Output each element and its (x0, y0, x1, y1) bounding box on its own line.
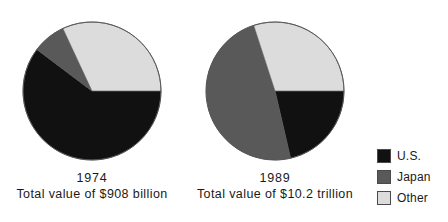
pie-1989-total-label: Total value of $10.2 trillion (190, 186, 360, 203)
pie-1989-year-label: 1989 (190, 170, 360, 186)
pie-1989-caption: 1989 Total value of $10.2 trillion (190, 170, 360, 203)
pie-1974-svg (19, 18, 165, 164)
legend-swatch-other-icon (377, 191, 391, 205)
pie-1989-slices (206, 22, 344, 160)
pie-1974-year-label: 1974 (12, 170, 172, 186)
legend-swatch-japan-icon (377, 170, 391, 184)
legend-item-other: Other (377, 188, 431, 207)
chart-legend: U.S. Japan Other (377, 146, 431, 209)
pie-1974-slices (23, 22, 161, 160)
pie-chart-1989: 1989 Total value of $10.2 trillion (190, 18, 360, 203)
pie-1974-total-label: Total value of $908 billion (12, 186, 172, 203)
legend-swatch-us-icon (377, 149, 391, 163)
legend-item-japan: Japan (377, 167, 431, 186)
legend-label-japan: Japan (397, 170, 431, 184)
legend-label-us: U.S. (397, 149, 421, 163)
pie-1974-caption: 1974 Total value of $908 billion (12, 170, 172, 203)
legend-label-other: Other (397, 191, 428, 205)
legend-item-us: U.S. (377, 146, 431, 165)
pie-chart-1974: 1974 Total value of $908 billion (12, 18, 172, 203)
pie-chart-figure: 1974 Total value of $908 billion 1989 To… (0, 0, 448, 222)
pie-1989-svg (202, 18, 348, 164)
